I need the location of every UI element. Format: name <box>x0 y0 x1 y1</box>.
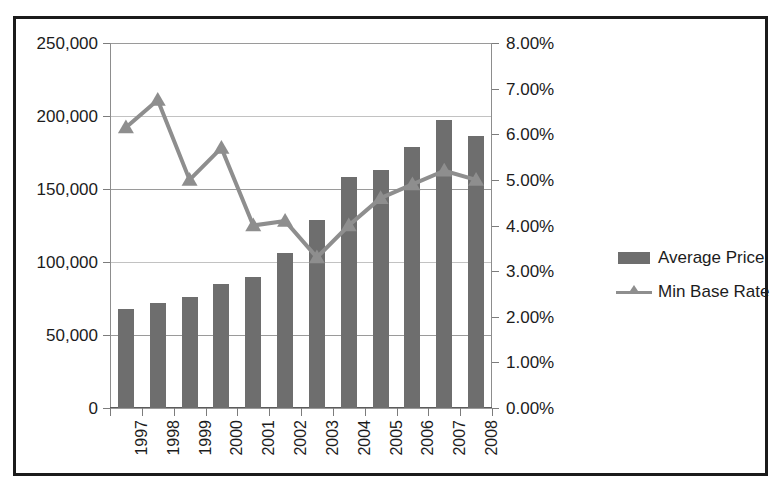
category-tick-mark <box>492 408 493 416</box>
category-tick-mark <box>269 408 270 416</box>
line-marker-1998 <box>150 92 166 106</box>
left-tick-label: 150,000 <box>37 181 98 198</box>
left-tick-mark <box>103 335 110 336</box>
category-tick-mark <box>142 408 143 416</box>
chart-legend: Average Price Min Base Rate <box>616 241 781 309</box>
line-series-min-base-rate <box>110 43 492 408</box>
right-tick-mark <box>492 134 499 135</box>
left-tick-label: 0 <box>89 400 98 417</box>
category-label-2005: 2005 <box>389 420 405 456</box>
legend-label-min-base-rate: Min Base Rate <box>652 282 770 302</box>
right-tick-label: 8.00% <box>506 35 554 52</box>
right-tick-mark <box>492 180 499 181</box>
category-label-2003: 2003 <box>325 420 341 456</box>
right-tick-label: 5.00% <box>506 171 554 188</box>
left-tick-mark <box>103 43 110 44</box>
category-tick-mark <box>110 408 111 416</box>
category-tick-mark <box>365 408 366 416</box>
line-path <box>126 100 476 257</box>
category-tick-mark <box>460 408 461 416</box>
category-label-2001: 2001 <box>261 420 277 456</box>
left-tick-mark <box>103 262 110 263</box>
category-label-2002: 2002 <box>293 420 309 456</box>
right-tick-label: 4.00% <box>506 217 554 234</box>
left-tick-mark <box>103 116 110 117</box>
right-tick-mark <box>492 89 499 90</box>
category-label-2000: 2000 <box>229 420 245 456</box>
legend-item-min-base-rate[interactable]: Min Base Rate <box>616 275 781 309</box>
category-tick-mark <box>206 408 207 416</box>
left-tick-label: 200,000 <box>37 108 98 125</box>
legend-item-average-price[interactable]: Average Price <box>616 241 781 275</box>
right-tick-mark <box>492 317 499 318</box>
category-tick-mark <box>333 408 334 416</box>
left-tick-label: 100,000 <box>37 254 98 271</box>
right-tick-mark <box>492 362 499 363</box>
category-label-2004: 2004 <box>357 420 373 456</box>
category-tick-mark <box>174 408 175 416</box>
right-tick-mark <box>492 43 499 44</box>
right-tick-label: 7.00% <box>506 80 554 97</box>
right-tick-label: 6.00% <box>506 126 554 143</box>
category-tick-mark <box>301 408 302 416</box>
right-tick-label: 1.00% <box>506 354 554 371</box>
right-tick-label: 2.00% <box>506 308 554 325</box>
category-tick-mark <box>428 408 429 416</box>
category-tick-mark <box>237 408 238 416</box>
category-label-2006: 2006 <box>420 420 436 456</box>
category-label-1997: 1997 <box>134 420 150 456</box>
category-label-1999: 1999 <box>198 420 214 456</box>
left-tick-mark <box>103 408 110 409</box>
left-tick-label: 250,000 <box>37 35 98 52</box>
left-tick-label: 50,000 <box>46 327 98 344</box>
plot-area: 050,000100,000150,000200,000250,000 0.00… <box>110 43 492 408</box>
right-tick-mark <box>492 271 499 272</box>
right-tick-mark <box>492 226 499 227</box>
category-label-2008: 2008 <box>484 420 500 456</box>
line-swatch-icon <box>616 275 652 309</box>
category-label-2007: 2007 <box>452 420 468 456</box>
category-tick-mark <box>397 408 398 416</box>
legend-label-average-price: Average Price <box>652 248 764 268</box>
bar-swatch-icon <box>616 241 652 275</box>
line-marker-2007 <box>436 163 452 177</box>
category-label-1998: 1998 <box>166 420 182 456</box>
right-tick-label: 0.00% <box>506 400 554 417</box>
left-tick-mark <box>103 189 110 190</box>
chart-frame: 050,000100,000150,000200,000250,000 0.00… <box>13 16 768 476</box>
line-marker-2000 <box>213 140 229 154</box>
right-tick-mark <box>492 408 499 409</box>
right-tick-label: 3.00% <box>506 263 554 280</box>
